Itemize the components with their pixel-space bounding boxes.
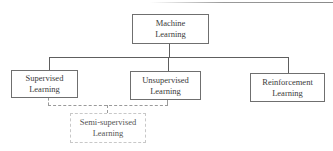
connector-to-reinforcement bbox=[288, 57, 289, 73]
node-label-line1: Supervised bbox=[26, 73, 64, 84]
connector-horizontal-bus bbox=[49, 57, 289, 58]
node-supervised-learning: Supervised Learning bbox=[11, 70, 78, 98]
node-semi-supervised-learning: Semi-supervised Learning bbox=[70, 113, 146, 143]
node-label-line1: Reinforcement bbox=[262, 77, 313, 88]
node-label-line2: Learning bbox=[155, 29, 186, 40]
node-label-line1: Unsupervised bbox=[142, 75, 189, 86]
connector-to-supervised bbox=[49, 57, 50, 70]
node-machine-learning: Machine Learning bbox=[132, 14, 209, 44]
node-label-line2: Learning bbox=[80, 128, 137, 139]
dashed-connector-supervised bbox=[48, 98, 49, 105]
node-label-line1: Semi-supervised bbox=[80, 117, 137, 128]
node-label-line2: Learning bbox=[26, 84, 64, 95]
scan-edge-artifact bbox=[150, 2, 333, 3]
dashed-connector-to-semi bbox=[107, 105, 108, 113]
node-label-line2: Learning bbox=[262, 88, 313, 99]
dashed-connector-bridge bbox=[48, 105, 168, 106]
node-label-line2: Learning bbox=[142, 86, 189, 97]
node-label-line1: Machine bbox=[155, 18, 186, 29]
connector-to-unsupervised bbox=[168, 57, 169, 71]
node-reinforcement-learning: Reinforcement Learning bbox=[250, 73, 325, 102]
node-unsupervised-learning: Unsupervised Learning bbox=[130, 71, 201, 100]
connector-root-down bbox=[169, 44, 170, 57]
